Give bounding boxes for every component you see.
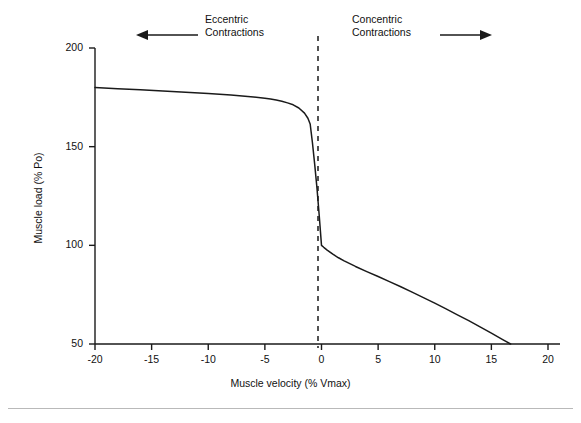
- y-tick-label: 200: [43, 41, 83, 53]
- x-tick-label: 10: [415, 353, 455, 365]
- force-velocity-curve: [95, 87, 511, 344]
- x-axis-title: Muscle velocity (% Vmax): [0, 377, 581, 389]
- figure-canvas: Eccentric Contractions Concentric Contra…: [0, 0, 581, 423]
- y-tick-label: 100: [43, 238, 83, 250]
- x-tick-label: 20: [528, 353, 568, 365]
- x-tick-label: 15: [471, 353, 511, 365]
- x-axis-ticks: [95, 344, 548, 350]
- axes: [89, 48, 560, 350]
- footer-divider: [8, 408, 573, 409]
- x-tick-label: 5: [358, 353, 398, 365]
- x-tick-label: -20: [75, 353, 115, 365]
- y-tick-label: 150: [43, 140, 83, 152]
- x-tick-label: -15: [132, 353, 172, 365]
- x-tick-label: -5: [245, 353, 285, 365]
- x-tick-label: 0: [302, 353, 342, 365]
- y-tick-label: 50: [43, 337, 83, 349]
- y-axis-title: Muscle load (% Po): [32, 98, 44, 298]
- x-tick-label: -10: [188, 353, 228, 365]
- y-axis-ticks: [89, 48, 95, 344]
